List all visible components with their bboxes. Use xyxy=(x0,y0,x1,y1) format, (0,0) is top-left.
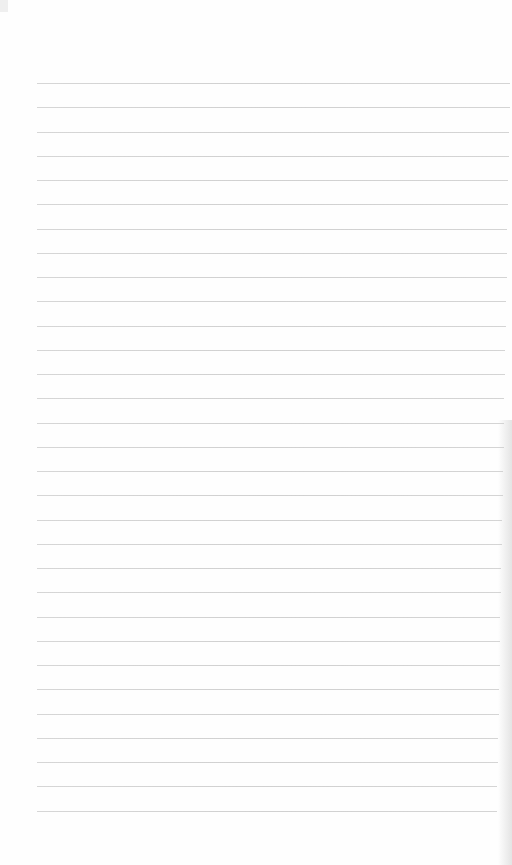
ruled-line xyxy=(37,592,501,593)
corner-shadow xyxy=(0,0,8,12)
ruled-line xyxy=(37,520,502,521)
ruled-line xyxy=(37,811,497,812)
ruled-line xyxy=(37,350,505,351)
ruled-line xyxy=(37,665,500,666)
ruled-line xyxy=(37,132,509,133)
ruled-line xyxy=(37,568,501,569)
ruled-line xyxy=(37,180,508,181)
ruled-line xyxy=(37,398,504,399)
ruled-line xyxy=(37,277,507,278)
ruled-line xyxy=(37,374,505,375)
ruled-line xyxy=(37,738,498,739)
ruled-line xyxy=(37,326,506,327)
lined-paper-sheet xyxy=(0,0,512,865)
ruled-line xyxy=(37,83,510,84)
ruled-line xyxy=(37,229,507,230)
ruled-line xyxy=(37,204,508,205)
ruled-line xyxy=(37,253,507,254)
ruled-line xyxy=(37,156,509,157)
ruled-line xyxy=(37,544,502,545)
ruled-line xyxy=(37,495,503,496)
ruled-line xyxy=(37,447,504,448)
ruled-line xyxy=(37,641,500,642)
ruled-line xyxy=(37,301,506,302)
ruled-line xyxy=(37,617,500,618)
page-edge-shadow xyxy=(498,420,512,865)
ruled-line xyxy=(37,714,499,715)
ruled-line xyxy=(37,689,499,690)
ruled-line xyxy=(37,762,498,763)
ruled-line xyxy=(37,423,504,424)
ruled-line xyxy=(37,786,497,787)
ruled-line xyxy=(37,107,510,108)
ruled-line xyxy=(37,471,503,472)
